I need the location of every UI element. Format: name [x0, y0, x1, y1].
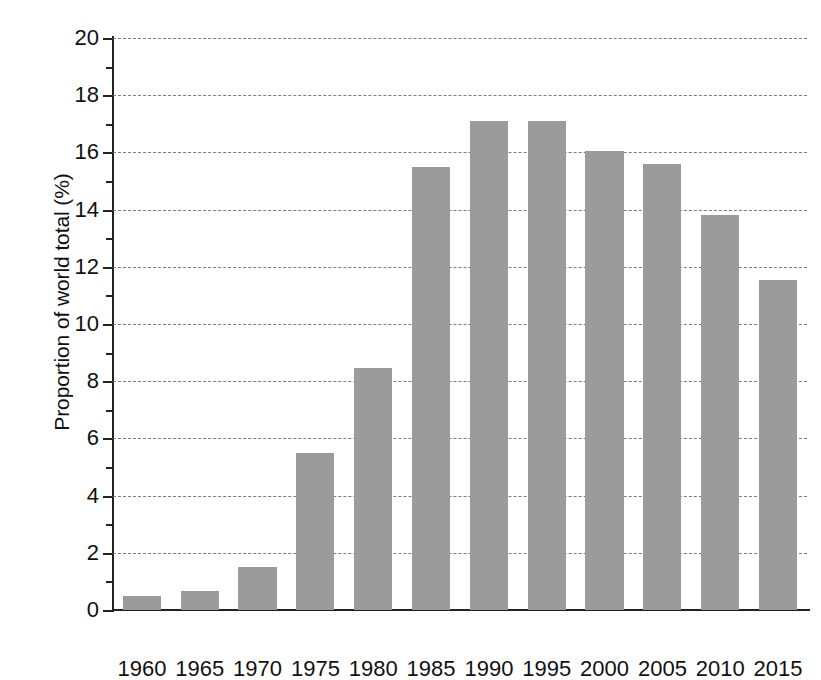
plot-area: 02468101214161820 1960196519701975198019…: [113, 38, 807, 610]
bar: [238, 567, 276, 610]
y-axis-minor-tick-mark: [106, 353, 113, 355]
y-axis-tick-label: 2: [87, 540, 99, 566]
y-axis-minor-tick-mark: [106, 581, 113, 583]
y-axis-minor-tick-mark: [106, 295, 113, 297]
y-axis-minor-tick-mark: [106, 524, 113, 526]
bar: [296, 453, 334, 610]
bar: [181, 591, 219, 610]
bar: [759, 280, 797, 610]
y-axis-tick-mark: [103, 553, 113, 555]
y-axis-minor-tick-mark: [106, 467, 113, 469]
bar: [528, 121, 566, 610]
y-axis-tick-label: 10: [75, 311, 99, 337]
y-axis-minor-tick-mark: [106, 67, 113, 69]
gridline: [113, 210, 807, 211]
y-axis-minor-tick-mark: [106, 238, 113, 240]
gridline: [113, 38, 807, 39]
y-axis-tick-mark: [103, 95, 113, 97]
y-axis-tick-mark: [103, 152, 113, 154]
y-axis-tick-label: 6: [87, 425, 99, 451]
y-axis-tick-label: 18: [75, 82, 99, 108]
y-axis-tick-mark: [103, 38, 113, 40]
y-axis-title: Proportion of world total (%): [50, 2, 74, 602]
bar: [123, 596, 161, 610]
gridline: [113, 152, 807, 153]
bar: [585, 151, 623, 610]
y-axis-tick-label: 0: [87, 597, 99, 623]
y-axis-tick-label: 12: [75, 254, 99, 280]
y-axis-minor-tick-mark: [106, 410, 113, 412]
cropped-caption-remnant: [0, 660, 821, 670]
bar: [354, 368, 392, 610]
gridline: [113, 95, 807, 96]
y-axis-tick-label: 20: [75, 25, 99, 51]
y-axis-tick-label: 4: [87, 483, 99, 509]
bar: [643, 164, 681, 610]
y-axis-tick-mark: [103, 210, 113, 212]
y-axis-minor-tick-mark: [106, 181, 113, 183]
y-axis-tick-mark: [103, 381, 113, 383]
y-axis-tick-label: 14: [75, 197, 99, 223]
bar: [701, 215, 739, 610]
y-axis-tick-mark: [103, 610, 113, 612]
y-axis-minor-tick-mark: [106, 124, 113, 126]
y-axis-tick-mark: [103, 496, 113, 498]
bar: [412, 167, 450, 610]
y-axis-tick-mark: [103, 324, 113, 326]
y-axis-tick-mark: [103, 267, 113, 269]
y-axis-tick-label: 16: [75, 139, 99, 165]
y-axis-tick-mark: [103, 438, 113, 440]
y-axis-tick-label: 8: [87, 368, 99, 394]
bar: [470, 121, 508, 610]
